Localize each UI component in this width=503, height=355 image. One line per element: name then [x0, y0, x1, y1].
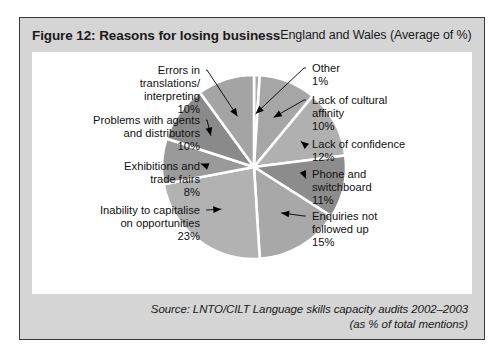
- pie-label-line: 10%: [178, 140, 200, 152]
- pie-label-line: and distributors: [124, 127, 201, 139]
- pie-label-line: Problems with agents: [93, 114, 200, 126]
- pie-label-line: Enquiries not: [312, 210, 378, 222]
- pie-label-line: Lack of confidence: [312, 138, 405, 150]
- pie-label-line: Lack of cultural: [312, 94, 387, 106]
- pie-label-line: Errors in: [158, 64, 200, 76]
- pie-label-line: Other: [312, 62, 340, 74]
- source-line-secondary: (as % of total mentions): [32, 317, 468, 332]
- pie-label-line: followed up: [312, 223, 369, 235]
- pie-chart-svg: Errors intranslations/interpreting10%Pro…: [32, 52, 472, 294]
- pie-label-line: Exhibitions and: [124, 160, 200, 172]
- pie-label-line: trade fairs: [150, 173, 200, 185]
- figure-subtitle: England and Wales (Average of %): [280, 28, 471, 42]
- figure-header: Figure 12: Reasons for losing business E…: [20, 18, 484, 52]
- pie-label-line: 1%: [312, 75, 328, 87]
- figure-panel: Figure 12: Reasons for losing business E…: [19, 17, 485, 340]
- page-title: Figure 12: Reasons for losing business: [32, 28, 280, 43]
- pie-label-line: 11%: [312, 194, 334, 206]
- pie-label-line: 12%: [312, 151, 334, 163]
- pie-label-line: translations/: [140, 77, 201, 89]
- pie-label-line: 10%: [312, 120, 334, 132]
- pie-label-line: 8%: [184, 186, 200, 198]
- pie-label-line: affinity: [312, 107, 345, 119]
- pie-chart-canvas: Errors intranslations/interpreting10%Pro…: [32, 52, 472, 294]
- pie-label-line: Inability to capitalise: [100, 204, 200, 216]
- pie-label-line: 23%: [178, 230, 200, 242]
- pie-label-line: interpreting: [144, 90, 200, 102]
- pie-label-line: switchboard: [312, 181, 372, 193]
- pie-label-line: 15%: [312, 236, 334, 248]
- source-note: Source: LNTO/CILT Language skills capaci…: [32, 302, 472, 332]
- pie-label-line: on opportunities: [120, 217, 200, 229]
- pie-label-line: Phone and: [312, 168, 366, 180]
- source-line-primary: Source: LNTO/CILT Language skills capaci…: [32, 302, 468, 317]
